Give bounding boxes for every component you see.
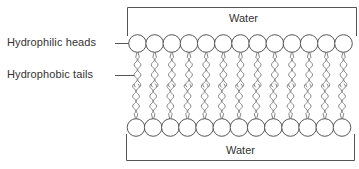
hydrophilic-head	[162, 119, 180, 137]
phospholipid	[335, 35, 353, 88]
phospholipid	[247, 84, 265, 137]
phospholipid	[196, 84, 214, 137]
tail-neck	[306, 114, 307, 119]
hydrophilic-head	[282, 119, 300, 137]
tail-neck	[274, 114, 275, 119]
hydrophobic-tail	[254, 57, 257, 87]
phospholipid	[318, 35, 336, 88]
tail-neck	[151, 114, 152, 119]
hydrophobic-tail	[258, 57, 261, 87]
hydrophobic-tail	[134, 57, 137, 87]
lipid-molecules	[127, 35, 352, 137]
tail-neck	[272, 114, 273, 119]
tail-neck	[257, 114, 258, 119]
hydrophobic-tail	[218, 84, 221, 114]
tail-neck	[137, 114, 138, 119]
phospholipid	[129, 35, 147, 88]
hydrophilic-head	[197, 35, 215, 53]
tail-neck	[275, 52, 276, 57]
phospholipid	[162, 84, 180, 137]
hydrophobic-tail	[306, 57, 309, 87]
tail-neck	[241, 52, 242, 57]
hydrophobic-tail	[203, 57, 206, 87]
hydrophobic-tail	[151, 57, 154, 87]
phospholipid	[179, 84, 197, 137]
tail-neck	[154, 114, 155, 119]
hydrophobic-tail	[344, 57, 347, 87]
hydrophobic-tail	[253, 84, 256, 114]
tail-neck	[256, 52, 257, 57]
hydrophobic-tail	[321, 84, 324, 114]
tail-neck	[186, 114, 187, 119]
tail-neck	[222, 114, 223, 119]
hydrophobic-tail	[224, 57, 227, 87]
bilayer-diagram	[0, 0, 359, 169]
tail-neck	[239, 52, 240, 57]
tail-neck	[237, 114, 238, 119]
phospholipid	[232, 35, 250, 88]
tail-neck	[342, 52, 343, 57]
hydrophobic-tail	[256, 84, 259, 114]
hydrophobic-tail	[201, 84, 204, 114]
hydrophobic-tail	[222, 84, 225, 114]
tail-neck	[240, 114, 241, 119]
tail-neck	[344, 52, 345, 57]
tail-neck	[289, 114, 290, 119]
tail-neck	[343, 114, 344, 119]
hydrophobic-tail	[189, 57, 192, 87]
phospholipid	[213, 84, 231, 137]
tail-neck	[205, 114, 206, 119]
tail-neck	[187, 52, 188, 57]
hydrophobic-tail	[167, 84, 170, 114]
hydrophobic-tail	[172, 57, 175, 87]
tail-neck	[136, 52, 137, 57]
hydrophobic-tail	[270, 84, 273, 114]
hydrophilic-head	[179, 119, 197, 137]
phospholipid	[266, 35, 284, 88]
hydrophobic-tail	[188, 84, 191, 114]
tail-neck	[190, 52, 191, 57]
tail-neck	[138, 52, 139, 57]
hydrophilic-head	[213, 119, 231, 137]
tail-neck	[325, 52, 326, 57]
phospholipid	[333, 84, 351, 137]
tail-neck	[307, 52, 308, 57]
tail-neck	[308, 114, 309, 119]
tail-neck	[204, 52, 205, 57]
hydrophilic-head	[163, 35, 181, 53]
hydrophobic-tail	[206, 57, 209, 87]
hydrophobic-tail	[289, 57, 292, 87]
tail-neck	[171, 114, 172, 119]
tail-neck	[188, 114, 189, 119]
tail-neck	[258, 52, 259, 57]
hydrophobic-tail	[136, 84, 139, 114]
hydrophobic-tail	[237, 57, 240, 87]
hydrophobic-tail	[186, 57, 189, 87]
tail-neck	[323, 114, 324, 119]
tail-neck	[222, 52, 223, 57]
phospholipid	[316, 84, 334, 137]
hydrophobic-tail	[327, 57, 330, 87]
phospholipid	[283, 35, 301, 88]
hydrophobic-tail	[184, 84, 187, 114]
hydrophobic-tail	[133, 84, 136, 114]
hydrophilic-head	[127, 119, 145, 137]
hydrophilic-head	[318, 35, 336, 53]
hydrophobic-tail	[323, 57, 326, 87]
hydrophobic-tail	[309, 57, 312, 87]
hydrophilic-head	[180, 35, 198, 53]
hydrophobic-tail	[304, 84, 307, 114]
tail-neck	[203, 114, 204, 119]
phospholipid	[127, 84, 145, 137]
tail-neck	[290, 52, 291, 57]
tail-neck	[172, 52, 173, 57]
water-top-label: Water	[229, 12, 258, 24]
phospholipid	[180, 35, 198, 88]
hydrophilic-head	[230, 119, 248, 137]
hydrophobic-tail	[308, 84, 311, 114]
tail-neck	[254, 114, 255, 119]
tail-neck	[170, 52, 171, 57]
hydrophobic-tail	[292, 57, 295, 87]
hydrophobic-tail	[339, 84, 342, 114]
hydrophobic-tail	[275, 57, 278, 87]
